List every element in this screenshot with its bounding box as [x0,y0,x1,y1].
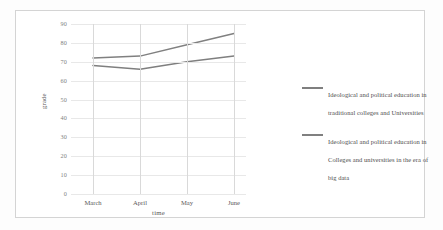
gridline-horizontal [71,175,246,176]
y-axis-tick-label: 20 [61,153,67,159]
y-axis-tick-label: 80 [61,40,67,46]
legend-line-swatch-icon [302,87,323,89]
y-axis-tick-label: 90 [61,21,67,27]
figure-container: grade 0102030405060708090MarchAprilMayJu… [0,0,443,230]
y-axis-tick-label: 70 [61,59,67,65]
y-axis-tick-label: 50 [61,96,67,102]
x-axis-tick-label: June [228,199,240,206]
series-lines [71,24,246,194]
chart-legend: Ideological and political education in t… [302,83,434,195]
y-axis-tick-label: 10 [61,172,67,178]
y-axis-tick-label: 40 [61,115,67,121]
chart-frame: grade 0102030405060708090MarchAprilMayJu… [15,10,425,218]
gridline-horizontal [71,24,246,25]
legend-line-swatch-icon [302,134,323,136]
x-axis-tick-label: April [133,199,147,206]
plot-area: 0102030405060708090MarchAprilMayJune [71,24,246,194]
gridline-vertical [234,24,235,194]
x-axis-title: time [71,209,246,216]
gridline-horizontal [71,194,246,195]
y-axis-tick-label: 60 [61,78,67,84]
y-axis-tick-label: 0 [64,191,67,197]
x-axis-tick-label: March [84,199,101,206]
gridline-vertical [93,24,94,194]
gridline-horizontal [71,137,246,138]
gridline-horizontal [71,100,246,101]
legend-item-label: Ideological and political education in C… [328,138,428,181]
legend-item-bigdata[interactable]: Ideological and political education in C… [302,130,434,184]
y-axis-tick-label: 30 [61,134,67,140]
legend-item-label: Ideological and political education in t… [328,91,427,116]
gridline-vertical [140,24,141,194]
gridline-horizontal [71,43,246,44]
gridline-horizontal [71,62,246,63]
series-line-2 [93,33,234,58]
y-axis-title: grade [40,93,47,109]
gridline-horizontal [71,81,246,82]
gridline-vertical [187,24,188,194]
gridline-horizontal [71,156,246,157]
gridline-horizontal [71,118,246,119]
x-axis-tick-label: May [181,199,193,206]
legend-item-traditional[interactable]: Ideological and political education in t… [302,83,434,119]
